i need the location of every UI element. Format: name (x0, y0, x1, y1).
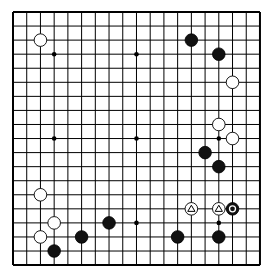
go-board[interactable] (0, 0, 269, 276)
star-point (134, 221, 139, 226)
black-stone[interactable] (75, 231, 88, 244)
star-point (134, 136, 139, 141)
white-stone[interactable] (213, 203, 226, 216)
white-stone[interactable] (34, 34, 47, 47)
star-point (52, 136, 57, 141)
black-stone[interactable] (199, 146, 212, 159)
black-stone[interactable] (213, 160, 226, 173)
black-stone[interactable] (48, 245, 61, 258)
white-stone[interactable] (34, 188, 47, 201)
white-stone[interactable] (48, 217, 61, 230)
star-point (134, 52, 139, 57)
white-stone[interactable] (185, 203, 198, 216)
black-stone[interactable] (185, 34, 198, 47)
white-stone[interactable] (226, 132, 239, 145)
black-stone[interactable] (213, 231, 226, 244)
star-point (52, 52, 57, 57)
star-point (217, 136, 222, 141)
black-stone[interactable] (103, 217, 116, 230)
star-point (217, 221, 222, 226)
white-stone[interactable] (34, 231, 47, 244)
black-stone[interactable] (226, 203, 239, 216)
black-stone[interactable] (171, 231, 184, 244)
black-stone[interactable] (213, 48, 226, 61)
white-stone[interactable] (213, 118, 226, 131)
white-stone[interactable] (226, 76, 239, 89)
